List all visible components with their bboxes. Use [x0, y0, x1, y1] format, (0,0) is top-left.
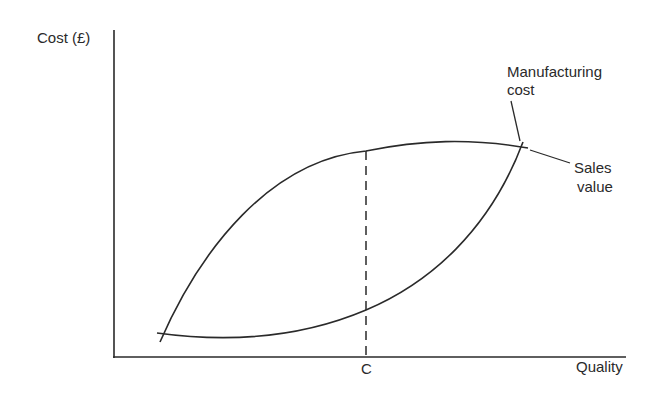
sales-value-label-line1: Sales: [574, 158, 613, 177]
sales-value-leader-line: [530, 150, 570, 163]
sales-value-label-line2: value: [574, 177, 613, 196]
manufacturing-cost-curve: [157, 142, 523, 338]
manufacturing-cost-label: Manufacturing cost: [507, 63, 602, 99]
manufacturing-cost-label-line2: cost: [507, 81, 602, 99]
x-axis-label: Quality: [576, 359, 623, 375]
sales-value-curve: [160, 142, 528, 342]
manufacturing-cost-label-line1: Manufacturing: [507, 63, 602, 81]
c-marker-label: C: [361, 361, 372, 377]
y-axis-label: Cost (£): [37, 30, 90, 46]
sales-value-label: Sales value: [574, 158, 613, 196]
cost-quality-diagram: [0, 0, 662, 402]
manufacturing-cost-leader-line: [511, 101, 520, 141]
